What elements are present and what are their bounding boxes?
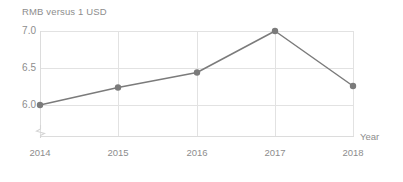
- x-tick-label-2015: 2015: [91, 147, 145, 158]
- x-tick-label-2014: 2014: [13, 147, 67, 158]
- data-point-2015[interactable]: [115, 84, 121, 90]
- data-point-2018[interactable]: [350, 83, 356, 89]
- x-tick-label-2017: 2017: [248, 147, 302, 158]
- line-chart-figure: RMB versus 1 USD 7.0 6.5 6.0 2014 2015 2…: [0, 0, 403, 182]
- data-point-2016[interactable]: [194, 69, 200, 75]
- x-tick-label-2018: 2018: [326, 147, 380, 158]
- x-tick-label-2016: 2016: [170, 147, 224, 158]
- series-line-rmb-vs-usd: [40, 31, 353, 105]
- data-point-2014[interactable]: [37, 102, 43, 108]
- data-point-2017[interactable]: [272, 28, 278, 34]
- x-axis-title: Year: [360, 131, 379, 142]
